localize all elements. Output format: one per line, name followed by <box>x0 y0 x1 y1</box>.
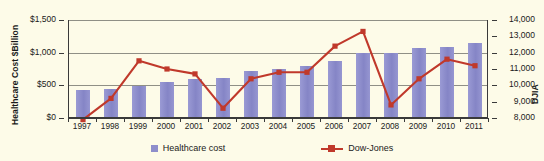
y-axis-right-tick-mark <box>492 20 497 21</box>
y-axis-right-tick-mark <box>492 118 497 119</box>
dow-jones-data-point <box>220 106 225 111</box>
x-axis-tick-label: 2005 <box>292 122 320 130</box>
y-axis-left-tick-label: $500 <box>37 80 56 89</box>
dow-jones-data-point <box>332 44 337 49</box>
legend-bar-swatch-icon <box>151 145 158 152</box>
x-axis-tick-mark <box>488 118 489 122</box>
x-axis-tick-label: 2002 <box>208 122 236 130</box>
y-axis-right-tick-mark <box>492 102 497 103</box>
y-axis-right-tick-mark <box>492 36 497 37</box>
plot-area <box>68 20 488 118</box>
x-axis-tick-label: 2004 <box>264 122 292 130</box>
y-axis-right-tick-label: 10,000 <box>501 80 535 89</box>
line-series-dow-jones <box>69 20 489 118</box>
dow-jones-data-point <box>248 76 253 81</box>
x-axis-tick-label: 1997 <box>68 122 96 130</box>
x-axis-tick-label: 2006 <box>320 122 348 130</box>
y-axis-left-tick-mark <box>59 53 64 54</box>
x-axis-tick-label: 2009 <box>404 122 432 130</box>
y-axis-left-ticks: $0$500$1,000$1,500 <box>14 0 64 161</box>
dow-jones-data-point <box>444 57 449 62</box>
dow-jones-data-point <box>164 66 169 71</box>
y-axis-left-tick-mark <box>59 20 64 21</box>
y-axis-right-tick-mark <box>492 69 497 70</box>
x-axis-tick-label: 2011 <box>460 122 488 130</box>
legend-label-healthcare-cost: Healthcare cost <box>163 143 226 153</box>
y-axis-left-tick-label: $1,000 <box>30 48 56 57</box>
legend-line-swatch-icon <box>321 144 343 153</box>
legend-label-dow-jones: Dow-Jones <box>348 143 393 153</box>
dow-jones-data-point <box>388 102 393 107</box>
y-axis-right-tick-mark <box>492 85 497 86</box>
y-axis-left-tick-label: $0 <box>47 113 56 122</box>
y-axis-right-tick-label: 8,000 <box>501 113 535 122</box>
y-axis-right-tick-label: 12,000 <box>501 48 535 57</box>
y-axis-right-tick-label: 14,000 <box>501 15 535 24</box>
y-axis-left-tick-mark <box>59 85 64 86</box>
x-axis-tick-label: 2001 <box>180 122 208 130</box>
y-axis-right-tick-label: 13,000 <box>501 31 535 40</box>
chart-legend: Healthcare cost Dow-Jones <box>0 140 544 156</box>
x-axis-tick-label: 2003 <box>236 122 264 130</box>
dow-jones-data-point <box>304 70 309 75</box>
dow-jones-data-point <box>192 71 197 76</box>
y-axis-right-tick-mark <box>492 53 497 54</box>
x-axis-tick-label: 2000 <box>152 122 180 130</box>
legend-item-dow-jones[interactable]: Dow-Jones <box>321 143 393 153</box>
dow-jones-data-point <box>276 70 281 75</box>
y-axis-right-tick-label: 11,000 <box>501 64 535 73</box>
dow-jones-data-point <box>416 76 421 81</box>
legend-item-healthcare-cost[interactable]: Healthcare cost <box>151 143 226 153</box>
y-axis-right-tick-label: 9,000 <box>501 97 535 106</box>
x-axis-tick-label: 2008 <box>376 122 404 130</box>
chart-container: Healthcare Cost $Billion DJIA $0$500$1,0… <box>0 0 544 161</box>
dow-jones-data-point <box>472 63 477 68</box>
dow-jones-data-point <box>136 58 141 63</box>
x-axis-tick-label: 1998 <box>96 122 124 130</box>
y-axis-right-ticks: 8,0009,00010,00011,00012,00013,00014,000 <box>492 0 536 161</box>
dow-jones-data-point <box>108 96 113 101</box>
dow-jones-data-point <box>360 29 365 34</box>
dow-jones-line-path <box>83 31 475 119</box>
y-axis-left-tick-mark <box>59 118 64 119</box>
x-axis: 1997199819992000200120022003200420052006… <box>68 118 488 136</box>
x-axis-tick-label: 1999 <box>124 122 152 130</box>
y-axis-left-tick-label: $1,500 <box>30 15 56 24</box>
x-axis-tick-label: 2010 <box>432 122 460 130</box>
x-axis-tick-label: 2007 <box>348 122 376 130</box>
